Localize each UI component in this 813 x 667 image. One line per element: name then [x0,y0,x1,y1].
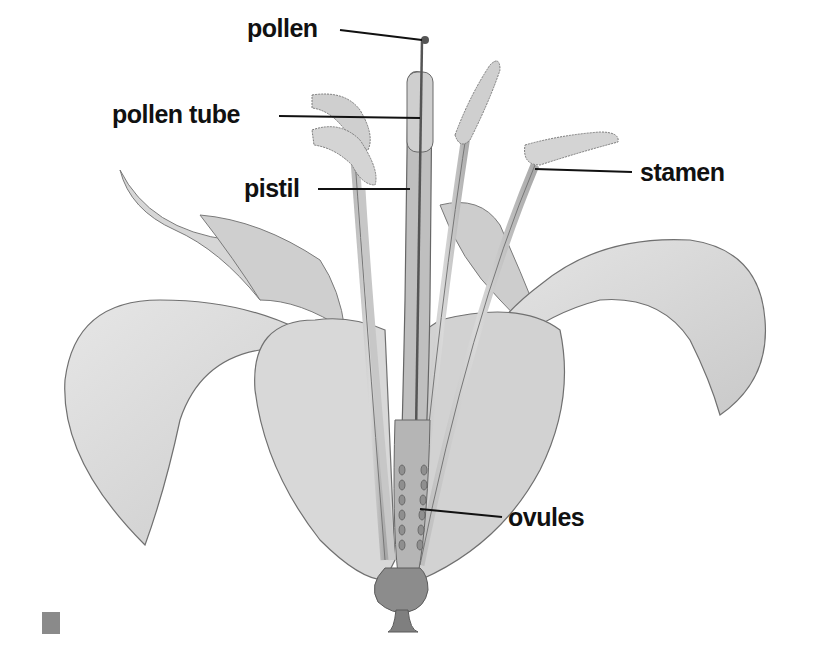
anther-3 [455,61,500,144]
label-pollen-tube: pollen tube [112,102,240,127]
gray-square-marker [42,612,60,634]
label-stamen: stamen [640,160,725,185]
anther-4 [525,132,619,165]
label-pistil: pistil [244,176,299,201]
leader-stamen [535,169,632,172]
pollen-grain [421,36,429,44]
leader-pollen [340,30,422,40]
label-pollen: pollen [247,16,318,41]
flower-diagram: pollen pollen tube pistil stamen ovules [0,0,813,667]
label-ovules: ovules [508,505,584,530]
receptacle [374,568,428,613]
leader-pollen-tube [279,116,420,118]
flower-stalk [388,610,418,632]
